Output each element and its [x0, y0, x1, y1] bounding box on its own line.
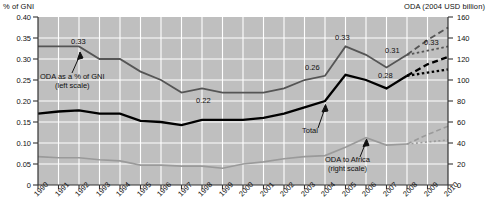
data-label-1999-022: 0.22: [196, 96, 211, 105]
right-tick-6: 40: [457, 139, 465, 148]
annotation-total: Total: [302, 126, 318, 135]
annotation-africa-line2: (right scale): [325, 164, 370, 173]
data-label-2004-026: 0.26: [305, 63, 320, 72]
left-tick-8: 0: [0, 181, 31, 190]
right-tick-3: 100: [457, 76, 470, 85]
annotation-total-line1: Total: [302, 126, 318, 135]
annotation-gni: ODA as a % of GNI (left scale): [40, 72, 105, 90]
left-tick-2: 0.30: [0, 55, 31, 64]
oda-chart: % of GNI ODA (2004 USD billion): [0, 0, 488, 223]
data-label-1992-033: 0.33: [71, 37, 86, 46]
data-label-2006-031: 0.31: [385, 46, 400, 55]
right-tick-5: 60: [457, 118, 465, 127]
right-tick-2: 120: [457, 55, 470, 64]
annotation-africa: ODA to Africa (right scale): [325, 155, 370, 173]
right-tick-4: 80: [457, 97, 465, 106]
annotation-gni-line1: ODA as a % of GNI: [40, 72, 105, 81]
left-tick-3: 0.25: [0, 76, 31, 85]
left-tick-5: 0.15: [0, 118, 31, 127]
left-tick-6: 0.10: [0, 139, 31, 148]
left-axis-ticks: [33, 17, 38, 185]
left-tick-4: 0.20: [0, 97, 31, 106]
data-label-2005-033: 0.33: [335, 33, 350, 42]
right-axis-ticks: [448, 17, 453, 185]
right-tick-0: 160: [457, 13, 470, 22]
left-tick-1: 0.35: [0, 34, 31, 43]
annotation-africa-line1: ODA to Africa: [325, 155, 370, 164]
data-label-2007-028: 0.28: [378, 71, 393, 80]
annotation-gni-line2: (left scale): [40, 81, 105, 90]
right-tick-1: 140: [457, 34, 470, 43]
left-tick-0: 0.40: [0, 13, 31, 22]
left-tick-7: 0.05: [0, 160, 31, 169]
data-label-2010-033: 0.33: [424, 38, 439, 47]
right-tick-7: 20: [457, 160, 465, 169]
